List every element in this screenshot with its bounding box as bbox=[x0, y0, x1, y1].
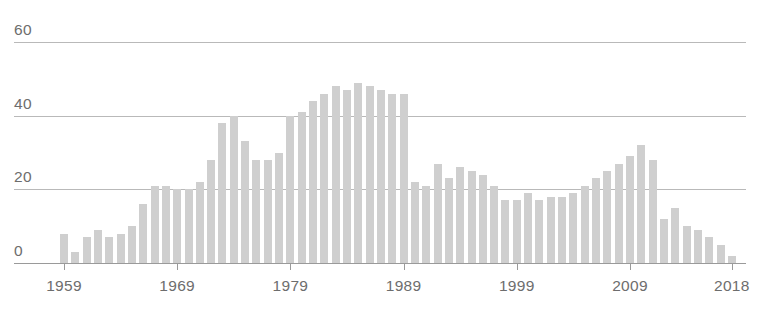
x-axis-tick-label-1999: 1999 bbox=[499, 278, 535, 294]
bar bbox=[128, 226, 136, 263]
bar bbox=[218, 123, 226, 263]
bar bbox=[230, 116, 238, 263]
bar bbox=[60, 234, 68, 263]
bar bbox=[71, 252, 79, 263]
bar bbox=[637, 145, 645, 263]
bar bbox=[196, 182, 204, 263]
bar bbox=[649, 160, 657, 263]
x-axis-tick-1959 bbox=[64, 263, 65, 270]
bar bbox=[117, 234, 125, 263]
plot-area: 6040200 1959196919791989199920092018 bbox=[0, 0, 760, 326]
bar bbox=[603, 171, 611, 263]
x-axis-tick-label-1969: 1969 bbox=[159, 278, 195, 294]
x-axis-tick-1979 bbox=[290, 263, 291, 270]
bar bbox=[445, 178, 453, 263]
bar bbox=[252, 160, 260, 263]
x-axis-tick-2009 bbox=[630, 263, 631, 270]
bar bbox=[286, 116, 294, 263]
bar bbox=[569, 193, 577, 263]
bar bbox=[275, 153, 283, 264]
bar bbox=[241, 141, 249, 263]
bar bbox=[332, 86, 340, 263]
bar bbox=[422, 186, 430, 263]
bar bbox=[626, 156, 634, 263]
bar bbox=[558, 197, 566, 263]
bar bbox=[264, 160, 272, 263]
bar bbox=[94, 230, 102, 263]
x-axis-tick-1999 bbox=[517, 263, 518, 270]
bar bbox=[660, 219, 668, 263]
x-axis-tick-2018 bbox=[732, 263, 733, 270]
bar bbox=[139, 204, 147, 263]
bar bbox=[434, 164, 442, 263]
bar bbox=[411, 182, 419, 263]
bar bbox=[694, 230, 702, 263]
bar bbox=[490, 186, 498, 263]
bar bbox=[547, 197, 555, 263]
bar bbox=[354, 83, 362, 263]
bar bbox=[501, 200, 509, 263]
bar bbox=[615, 164, 623, 263]
bar bbox=[592, 178, 600, 263]
bar bbox=[683, 226, 691, 263]
bar bbox=[320, 94, 328, 263]
bar bbox=[298, 112, 306, 263]
bar bbox=[105, 237, 113, 263]
x-axis-tick-label-2009: 2009 bbox=[612, 278, 648, 294]
bar bbox=[366, 86, 374, 263]
bar bbox=[456, 167, 464, 263]
bar bbox=[535, 200, 543, 263]
bar bbox=[479, 175, 487, 263]
bar bbox=[83, 237, 91, 263]
bar bbox=[671, 208, 679, 263]
bar bbox=[581, 186, 589, 263]
bar bbox=[185, 189, 193, 263]
x-axis-tick-label-2018: 2018 bbox=[714, 278, 750, 294]
bar bbox=[173, 189, 181, 263]
bar bbox=[468, 171, 476, 263]
bar bbox=[343, 90, 351, 263]
bar bbox=[207, 160, 215, 263]
x-axis-tick-label-1959: 1959 bbox=[46, 278, 82, 294]
x-axis-tick-1969 bbox=[177, 263, 178, 270]
bar bbox=[705, 237, 713, 263]
bar bbox=[524, 193, 532, 263]
bar bbox=[513, 200, 521, 263]
bar bbox=[717, 245, 725, 263]
x-axis-tick-label-1979: 1979 bbox=[273, 278, 309, 294]
bar bbox=[400, 94, 408, 263]
bar bbox=[309, 101, 317, 263]
bar-chart: 6040200 1959196919791989199920092018 bbox=[0, 0, 760, 326]
x-axis-tick-label-1989: 1989 bbox=[386, 278, 422, 294]
bar bbox=[377, 90, 385, 263]
bar bbox=[728, 256, 736, 263]
bar bbox=[162, 186, 170, 263]
bar bbox=[388, 94, 396, 263]
bar bbox=[151, 186, 159, 263]
x-axis-tick-1989 bbox=[404, 263, 405, 270]
